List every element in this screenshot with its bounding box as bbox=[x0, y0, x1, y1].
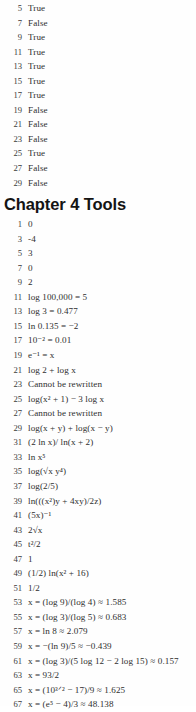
answer-number: 23 bbox=[0, 132, 28, 147]
answer-row: 35log(√x y⁴) bbox=[0, 464, 196, 479]
answer-row: 432√x bbox=[0, 523, 196, 538]
answer-row: 1710⁻² = 0.01 bbox=[0, 333, 196, 348]
answer-number: 11 bbox=[0, 45, 28, 60]
answer-row: 41(5x)⁻¹ bbox=[0, 508, 196, 523]
answer-row: 23Cannot be rewritten bbox=[0, 377, 196, 392]
answer-value: ln(((x²)y + 4xy)/2z) bbox=[28, 494, 102, 509]
answer-row: 11True bbox=[0, 45, 196, 60]
answer-row: 92 bbox=[0, 275, 196, 290]
answer-number: 17 bbox=[0, 333, 28, 348]
answer-row: 63x = 93/2 bbox=[0, 668, 196, 683]
answer-number: 39 bbox=[0, 494, 28, 509]
answer-value: ln 0.135 = −2 bbox=[28, 319, 78, 334]
answer-value: x = −(ln 9)/5 ≈ −0.439 bbox=[28, 639, 112, 654]
answer-number: 37 bbox=[0, 479, 28, 494]
chapter-heading: Chapter 4 Tools bbox=[4, 194, 196, 214]
answer-number: 55 bbox=[0, 610, 28, 625]
answer-value: log(2/5) bbox=[28, 479, 58, 494]
answer-number: 29 bbox=[0, 176, 28, 191]
answer-number: 27 bbox=[0, 406, 28, 421]
answer-row: 19e⁻¹ = x bbox=[0, 348, 196, 363]
answer-value: True bbox=[28, 1, 45, 16]
answer-value: True bbox=[28, 74, 45, 89]
answer-number: 35 bbox=[0, 464, 28, 479]
answer-value: log 2 + log x bbox=[28, 363, 76, 378]
answer-section-chapter-4-tools: Chapter 4 Tools 103-453709211log 100,000… bbox=[0, 194, 196, 712]
answer-value: Cannot be rewritten bbox=[28, 377, 102, 392]
answer-value: x = (log 3)/(log 5) ≈ 0.683 bbox=[28, 610, 126, 625]
answer-number: 59 bbox=[0, 639, 28, 654]
answer-value: log 100,000 = 5 bbox=[28, 290, 87, 305]
answer-value: False bbox=[28, 117, 48, 132]
answer-number: 19 bbox=[0, 103, 28, 118]
answer-value: t²/2 bbox=[28, 537, 41, 552]
answer-number: 15 bbox=[0, 74, 28, 89]
answer-value: x = (10³ᐟ² − 17)/9 ≈ 1.625 bbox=[28, 683, 125, 698]
answer-value: True bbox=[28, 146, 45, 161]
answer-row: 27Cannot be rewritten bbox=[0, 406, 196, 421]
answer-value: (5x)⁻¹ bbox=[28, 508, 51, 523]
answer-row: 31(2 ln x)/ ln(x + 2) bbox=[0, 435, 196, 450]
answer-value: e⁻¹ = x bbox=[28, 348, 55, 363]
answer-number: 5 bbox=[0, 1, 28, 16]
answer-number: 27 bbox=[0, 161, 28, 176]
answer-row: 70 bbox=[0, 261, 196, 276]
answer-number: 47 bbox=[0, 552, 28, 567]
answer-value: x = (e⁵ − 4)/3 ≈ 48.138 bbox=[28, 697, 114, 712]
answer-number: 33 bbox=[0, 450, 28, 465]
answer-value: 0 bbox=[28, 217, 33, 232]
answer-row: 53x = (log 9)/(log 4) ≈ 1.585 bbox=[0, 595, 196, 610]
answer-row: 61x = (log 3)/(5 log 12 − 2 log 15) ≈ 0.… bbox=[0, 654, 196, 669]
answer-number: 61 bbox=[0, 654, 28, 669]
answer-number: 23 bbox=[0, 377, 28, 392]
answer-value: x = (log 9)/(log 4) ≈ 1.585 bbox=[28, 595, 126, 610]
answer-row: 21log 2 + log x bbox=[0, 363, 196, 378]
answer-value: True bbox=[28, 88, 45, 103]
answer-number: 21 bbox=[0, 363, 28, 378]
answer-row: 17True bbox=[0, 88, 196, 103]
answer-number: 13 bbox=[0, 304, 28, 319]
answer-row: 7False bbox=[0, 16, 196, 31]
answer-row: 15ln 0.135 = −2 bbox=[0, 319, 196, 334]
answer-value: x = ln 8 ≈ 2.079 bbox=[28, 624, 88, 639]
answer-number: 5 bbox=[0, 246, 28, 261]
answer-number: 11 bbox=[0, 290, 28, 305]
answer-row: 55x = (log 3)/(log 5) ≈ 0.683 bbox=[0, 610, 196, 625]
answer-row: 45t²/2 bbox=[0, 537, 196, 552]
answer-row: 29False bbox=[0, 176, 196, 191]
answer-value: 10⁻² = 0.01 bbox=[28, 333, 71, 348]
answer-row: 23False bbox=[0, 132, 196, 147]
answer-row: 13log 3 = 0.477 bbox=[0, 304, 196, 319]
answer-value: Cannot be rewritten bbox=[28, 406, 102, 421]
answer-value: False bbox=[28, 161, 48, 176]
answer-row: 25True bbox=[0, 146, 196, 161]
answer-number: 25 bbox=[0, 146, 28, 161]
answer-value: (1/2) ln(x² + 16) bbox=[28, 566, 89, 581]
answer-row: 49(1/2) ln(x² + 16) bbox=[0, 566, 196, 581]
answer-value: log(x + y) + log(x − y) bbox=[28, 421, 113, 436]
answer-number: 17 bbox=[0, 88, 28, 103]
answer-row: 10 bbox=[0, 217, 196, 232]
answer-value: False bbox=[28, 132, 48, 147]
answer-number: 57 bbox=[0, 624, 28, 639]
answer-number: 25 bbox=[0, 392, 28, 407]
answer-row: 13True bbox=[0, 59, 196, 74]
answer-row: 59x = −(ln 9)/5 ≈ −0.439 bbox=[0, 639, 196, 654]
answer-row: 53 bbox=[0, 246, 196, 261]
answer-number: 21 bbox=[0, 117, 28, 132]
answer-value: log 3 = 0.477 bbox=[28, 304, 78, 319]
answer-row: 3-4 bbox=[0, 232, 196, 247]
answer-value: True bbox=[28, 59, 45, 74]
answer-value: log(√x y⁴) bbox=[28, 464, 66, 479]
answer-number: 51 bbox=[0, 581, 28, 596]
answer-row: 27False bbox=[0, 161, 196, 176]
answer-value: 0 bbox=[28, 261, 33, 276]
answer-value: 2√x bbox=[28, 523, 42, 538]
answer-row: 511/2 bbox=[0, 581, 196, 596]
answer-number: 19 bbox=[0, 348, 28, 363]
answer-value: x = (log 3)/(5 log 12 − 2 log 15) ≈ 0.15… bbox=[28, 654, 179, 669]
answer-number: 63 bbox=[0, 668, 28, 683]
answer-list: 5True7False9True11True13True15True17True… bbox=[0, 1, 196, 190]
answer-number: 3 bbox=[0, 232, 28, 247]
